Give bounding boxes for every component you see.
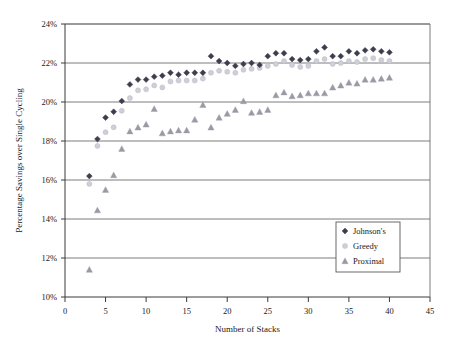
- data-point: [143, 77, 149, 83]
- data-point: [102, 187, 108, 193]
- xtick-label-0: 0: [63, 306, 67, 316]
- data-point: [265, 53, 271, 59]
- data-point: [306, 63, 311, 68]
- xtick-label-30: 30: [304, 306, 313, 316]
- data-point: [249, 66, 254, 71]
- xtick-label-45: 45: [426, 306, 435, 316]
- data-point: [355, 60, 360, 65]
- data-point: [330, 61, 335, 66]
- data-point: [103, 130, 108, 135]
- data-point: [346, 79, 352, 85]
- data-point: [314, 59, 319, 64]
- xtick-label-40: 40: [385, 306, 394, 316]
- data-point: [86, 267, 92, 273]
- series-johnson-s: [86, 45, 392, 180]
- data-point: [225, 69, 230, 74]
- data-point: [176, 78, 181, 83]
- data-point: [127, 82, 133, 88]
- data-point: [217, 68, 222, 73]
- data-point: [370, 46, 376, 52]
- data-point: [378, 76, 384, 82]
- data-point: [241, 61, 247, 67]
- xtick-label-25: 25: [264, 306, 273, 316]
- data-point: [330, 84, 336, 90]
- data-point: [167, 128, 173, 134]
- data-point: [127, 96, 132, 101]
- data-point: [305, 56, 311, 62]
- data-point: [135, 124, 141, 130]
- data-point: [330, 53, 336, 59]
- data-point: [387, 49, 393, 55]
- data-point: [184, 70, 190, 76]
- data-point: [175, 127, 181, 133]
- data-point: [305, 90, 311, 96]
- legend-marker-circle: [343, 244, 348, 249]
- data-point: [232, 107, 238, 113]
- data-point: [322, 45, 328, 51]
- data-point: [233, 70, 238, 75]
- data-point: [322, 57, 327, 62]
- data-point: [241, 67, 246, 72]
- data-point: [159, 73, 165, 79]
- xtick-label-15: 15: [182, 306, 191, 316]
- data-point: [152, 83, 157, 88]
- ytick-label-14: 14%: [41, 214, 57, 224]
- data-point: [119, 98, 125, 104]
- data-point: [282, 59, 287, 64]
- data-point: [281, 89, 287, 95]
- xtick-label-35: 35: [345, 306, 354, 316]
- data-point: [257, 109, 263, 115]
- xtick-label-10: 10: [142, 306, 151, 316]
- data-point: [298, 64, 303, 69]
- data-point: [346, 59, 351, 64]
- data-point: [290, 62, 295, 67]
- data-point: [249, 60, 255, 66]
- data-point: [200, 76, 205, 81]
- data-point: [248, 110, 254, 116]
- data-point: [387, 59, 392, 64]
- data-point: [216, 115, 222, 121]
- data-point: [176, 72, 182, 78]
- data-point: [386, 75, 392, 81]
- data-point: [103, 115, 109, 121]
- series-greedy: [87, 56, 392, 187]
- data-point: [127, 128, 133, 134]
- data-point: [151, 74, 157, 80]
- legend-label-0: Johnson's: [353, 226, 386, 236]
- data-point: [265, 107, 271, 113]
- data-point: [371, 56, 376, 61]
- data-point: [94, 207, 100, 213]
- data-point: [289, 93, 295, 99]
- data-point: [354, 80, 360, 86]
- data-point: [87, 181, 92, 186]
- data-point: [192, 78, 197, 83]
- data-point: [289, 56, 295, 62]
- data-point: [119, 108, 124, 113]
- xtick-label-20: 20: [223, 306, 232, 316]
- data-point: [159, 130, 165, 136]
- data-point: [338, 82, 344, 88]
- chart-svg: 10%12%14%16%18%20%22%24%0510152025303540…: [0, 0, 452, 340]
- data-point: [111, 172, 117, 178]
- data-point: [160, 85, 165, 90]
- data-point: [208, 53, 214, 59]
- data-point: [192, 116, 198, 122]
- data-point: [232, 63, 238, 69]
- data-point: [273, 50, 279, 56]
- data-point: [313, 90, 319, 96]
- data-point: [200, 70, 206, 76]
- data-point: [136, 88, 141, 93]
- legend-label-1: Greedy: [353, 241, 379, 251]
- data-point: [111, 109, 117, 115]
- data-point: [184, 127, 190, 133]
- data-point: [370, 76, 376, 82]
- data-point: [168, 70, 174, 76]
- data-point: [379, 58, 384, 63]
- ytick-label-10: 10%: [41, 292, 57, 302]
- data-point: [265, 63, 270, 68]
- data-point: [119, 146, 125, 152]
- data-point: [338, 61, 343, 66]
- data-point: [297, 57, 303, 63]
- data-point: [362, 76, 368, 82]
- data-point: [314, 48, 320, 54]
